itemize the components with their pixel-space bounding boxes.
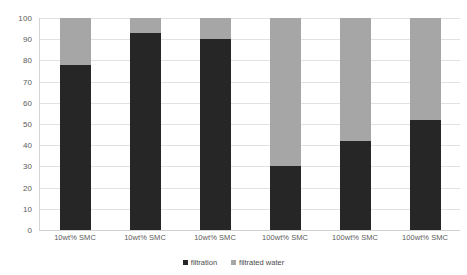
bars-layer [40, 18, 460, 230]
stacked-bar-chart: 0102030405060708090100 10wt% SMC10wt% SM… [0, 0, 467, 275]
gridline [40, 230, 460, 231]
bar-segment-filtrated-water[interactable] [270, 18, 301, 166]
bar-segment-filtration[interactable] [200, 39, 231, 230]
bar-segment-filtrated-water[interactable] [200, 18, 231, 39]
y-axis-tick-label: 60 [23, 98, 32, 107]
bar-segment-filtration[interactable] [340, 141, 371, 230]
x-axis-tick-label: 100wt% SMC [320, 233, 390, 242]
plot-area [40, 18, 460, 230]
bar-segment-filtrated-water[interactable] [410, 18, 441, 120]
y-axis-tick-label: 50 [23, 120, 32, 129]
legend-swatch-icon [183, 260, 188, 265]
y-axis-tick-label: 20 [23, 183, 32, 192]
legend-label: filtration [191, 258, 217, 267]
bar-segment-filtration[interactable] [410, 120, 441, 230]
y-axis-tick-labels: 0102030405060708090100 [0, 18, 36, 230]
bar-segment-filtrated-water[interactable] [340, 18, 371, 141]
bar-stack [340, 18, 371, 230]
bar-segment-filtrated-water[interactable] [130, 18, 161, 33]
bar-stack [130, 18, 161, 230]
bar-segment-filtration[interactable] [60, 65, 91, 230]
bar-group[interactable] [340, 18, 371, 230]
chart-legend: filtrationfiltrated water [0, 258, 467, 267]
y-axis-tick-label: 10 [23, 204, 32, 213]
bar-segment-filtration[interactable] [270, 166, 301, 230]
x-axis-tick-label: 10wt% SMC [180, 233, 250, 242]
y-axis-tick-label: 30 [23, 162, 32, 171]
legend-item[interactable]: filtrated water [231, 258, 284, 267]
y-axis-tick-label: 100 [18, 14, 32, 23]
legend-swatch-icon [231, 260, 236, 265]
x-axis-tick-label: 10wt% SMC [110, 233, 180, 242]
y-axis-tick-label: 90 [23, 35, 32, 44]
bar-group[interactable] [410, 18, 441, 230]
x-axis-tick-labels: 10wt% SMC10wt% SMC10wt% SMC100wt% SMC100… [40, 233, 460, 247]
bar-stack [60, 18, 91, 230]
bar-stack [410, 18, 441, 230]
bar-segment-filtration[interactable] [130, 33, 161, 230]
bar-group[interactable] [200, 18, 231, 230]
x-axis-tick-label: 10wt% SMC [40, 233, 110, 242]
legend-item[interactable]: filtration [183, 258, 217, 267]
y-axis-tick-label: 70 [23, 77, 32, 86]
y-axis-tick-label: 0 [27, 226, 32, 235]
bar-segment-filtrated-water[interactable] [60, 18, 91, 65]
y-axis-tick-label: 80 [23, 56, 32, 65]
legend-label: filtrated water [239, 258, 284, 267]
bar-group[interactable] [270, 18, 301, 230]
bar-stack [270, 18, 301, 230]
y-axis-tick-label: 40 [23, 141, 32, 150]
bar-stack [200, 18, 231, 230]
bar-group[interactable] [130, 18, 161, 230]
x-axis-tick-label: 100wt% SMC [250, 233, 320, 242]
bar-group[interactable] [60, 18, 91, 230]
x-axis-tick-label: 100wt% SMC [390, 233, 460, 242]
